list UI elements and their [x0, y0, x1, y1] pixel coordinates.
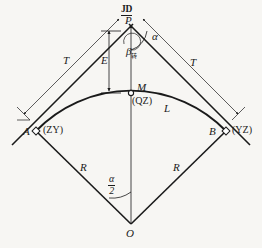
r-right-label: R: [173, 162, 180, 173]
b-label: B: [209, 126, 216, 137]
m-label: M: [137, 82, 146, 93]
o-label: O: [126, 228, 134, 239]
beta-label: β转: [126, 46, 137, 59]
tangent-dimension-left: [17, 19, 119, 120]
alpha-half-numerator: α: [108, 174, 115, 186]
radius-line-left: [36, 131, 131, 224]
alpha-half-label: α 2: [108, 174, 115, 197]
p-label: P: [125, 15, 132, 26]
beta-subscript: 转: [131, 53, 137, 59]
curve-diagram: JD P α β转 E M (QZ) L T T A (ZY) B (YZ) R…: [0, 0, 262, 248]
t-left-label: T: [63, 55, 69, 66]
a-label: A: [23, 126, 30, 137]
e-label: E: [101, 55, 108, 66]
alpha-label: α: [152, 31, 158, 42]
t-right-label: T: [190, 57, 196, 68]
tangent-dimension-right: [143, 19, 245, 120]
l-label: L: [164, 103, 170, 114]
qz-label: (QZ): [132, 96, 152, 106]
alpha-half-denominator: 2: [108, 186, 115, 197]
radius-line-right: [131, 131, 226, 224]
r-left-label: R: [80, 162, 87, 173]
point-marker-p: [130, 26, 133, 29]
zy-label: (ZY): [43, 125, 63, 135]
yz-label: (YZ): [232, 125, 252, 135]
left-tangent-line: [12, 24, 133, 145]
diagram-canvas: [0, 0, 262, 248]
